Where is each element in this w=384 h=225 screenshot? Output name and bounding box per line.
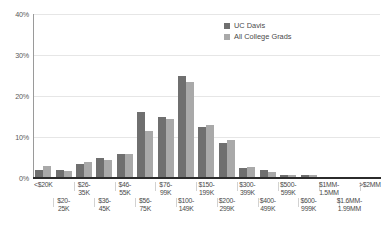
bar-chart: 0%10%20%30%40% UC Davis All College Grad…: [0, 0, 384, 225]
bar-group: [196, 14, 216, 178]
x-axis-tick-label-line2: 499K: [260, 205, 275, 212]
x-axis-tick-label-line2: 199K: [199, 189, 214, 196]
x-axis-tick-label-line2: 45K: [99, 205, 110, 212]
bar: [76, 164, 84, 178]
x-axis-tick-label-line2: 99K: [160, 189, 171, 196]
x-axis-tick-label: $36-45K: [82, 197, 126, 213]
bar-group: [33, 14, 53, 178]
y-axis-tick-label: 40%: [0, 10, 29, 19]
bar: [137, 112, 145, 178]
x-axis-tick-label: $400-499K: [246, 197, 290, 213]
x-axis-tick-label-line2: 149K: [179, 205, 194, 212]
x-axis-tick-label-line2: 599K: [281, 189, 296, 196]
x-axis-labels: <$20K$20-25K$26-35K$36-45K$46-55K$56-75K…: [0, 179, 384, 225]
bar: [198, 127, 206, 178]
legend-swatch-icon: [224, 34, 230, 40]
bar: [104, 160, 112, 178]
bar-group: [319, 14, 339, 178]
bar: [219, 143, 227, 178]
x-axis-tick-label: $150-199K: [185, 181, 229, 197]
x-axis-tick-label: $1.6MM-1.99MM: [327, 197, 371, 213]
legend-label: UC Davis: [234, 21, 265, 32]
bar-group: [298, 14, 318, 178]
bar: [96, 158, 104, 179]
legend-item-all-college-grads: All College Grads: [224, 32, 292, 43]
x-axis-tick-label: $1MM-1.5MM: [307, 181, 351, 197]
bar: [117, 154, 125, 178]
bar: [125, 154, 133, 178]
bar-group: [339, 14, 359, 178]
y-axis-line: [33, 14, 34, 179]
legend: UC Davis All College Grads: [224, 21, 292, 42]
x-axis-tick-label: >$2MM: [348, 181, 384, 189]
x-axis-tick-label-line2: 75K: [140, 205, 151, 212]
x-axis-tick-label: $20-25K: [42, 197, 86, 213]
bar: [158, 117, 166, 179]
bar-group: [155, 14, 175, 178]
y-axis-tick-label: 30%: [0, 51, 29, 60]
y-axis-tick-label: 10%: [0, 133, 29, 142]
bar-series-container: [33, 14, 380, 178]
x-axis-tick-label: $500-599K: [266, 181, 310, 197]
x-axis-tick-label: <$20K: [21, 181, 65, 189]
legend-item-uc-davis: UC Davis: [224, 21, 292, 32]
legend-label: All College Grads: [234, 32, 292, 43]
bar-group: [360, 14, 380, 178]
bar-group: [176, 14, 196, 178]
x-axis-tick-label: $46-55K: [103, 181, 147, 197]
bar-group: [135, 14, 155, 178]
bar: [227, 140, 235, 178]
bar-group: [115, 14, 135, 178]
x-axis-tick-label: $300-399K: [225, 181, 269, 197]
x-axis-tick-label-line2: 299K: [219, 205, 234, 212]
bar-group: [94, 14, 114, 178]
plot-area: [33, 14, 380, 178]
x-axis-tick-label-line2: 1.99MM: [338, 205, 361, 212]
legend-swatch-icon: [224, 23, 230, 29]
bar: [84, 162, 92, 178]
bar: [186, 82, 194, 178]
x-axis-tick-label-line2: 55K: [119, 189, 130, 196]
x-axis-tick-label-line2: 999K: [301, 205, 316, 212]
x-axis-tick-label: $600-999K: [287, 197, 331, 213]
x-axis-tick-label-line2: 35K: [78, 189, 89, 196]
bar: [145, 131, 153, 178]
bar-group: [74, 14, 94, 178]
bar: [166, 119, 174, 178]
x-axis-tick-label: $76-99K: [144, 181, 188, 197]
x-axis-tick-label: $200-299K: [205, 197, 249, 213]
x-axis-tick-label: $26-35K: [62, 181, 106, 197]
bar-group: [53, 14, 73, 178]
bar: [178, 76, 186, 179]
bar: [206, 125, 214, 178]
x-axis-tick-label: $100-149K: [164, 197, 208, 213]
y-axis-tick-label: 20%: [0, 92, 29, 101]
x-axis-tick-label-line2: 25K: [58, 205, 69, 212]
x-axis-tick-label-line2: 1.5MM: [319, 189, 339, 196]
x-axis-tick-label-line2: 399K: [240, 189, 255, 196]
x-axis-tick-label: $56-75K: [123, 197, 167, 213]
